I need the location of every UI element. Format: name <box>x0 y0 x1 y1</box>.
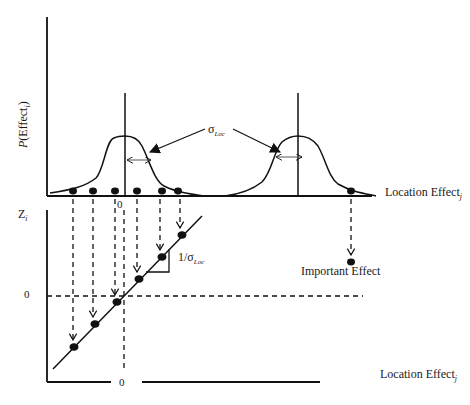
important-effect-dot-upper <box>347 188 355 195</box>
probit-point <box>135 275 144 283</box>
zero-top-x-label: 0 <box>117 198 123 210</box>
effect-dot <box>158 188 166 195</box>
probit-point <box>158 253 167 261</box>
important-effect-label: Important Effect <box>301 264 380 279</box>
location-effect-bottom-label: Location Effectj <box>380 367 457 383</box>
shifted-distribution-curve <box>225 136 376 196</box>
null-distribution-curve <box>50 136 204 196</box>
p-effect-axis-label: P(Effecti) <box>16 101 32 148</box>
sigma-pointer-right <box>233 129 280 152</box>
sigma-pointer-left <box>150 129 205 152</box>
zero-bottom-x-label: 0 <box>119 376 125 388</box>
probit-point <box>178 231 187 239</box>
probit-point <box>70 343 79 351</box>
location-effect-top-label: Location Effectj <box>385 185 462 201</box>
upper-panel <box>47 17 376 196</box>
probit-point <box>91 320 100 328</box>
effect-dot <box>89 188 97 195</box>
effect-dot <box>69 188 77 195</box>
normal-probability-plot-diagram <box>0 0 470 405</box>
effect-dot <box>174 188 182 195</box>
effect-dot <box>111 188 119 195</box>
effect-dot <box>133 188 141 195</box>
zero-y-label: 0 <box>24 288 30 300</box>
sigma-loc-label: σLoc <box>208 122 225 138</box>
probit-point <box>113 298 122 306</box>
z-axis-label: Zi <box>18 207 28 223</box>
projection-lines <box>47 199 363 372</box>
slope-label: 1/σLoc <box>178 250 204 266</box>
